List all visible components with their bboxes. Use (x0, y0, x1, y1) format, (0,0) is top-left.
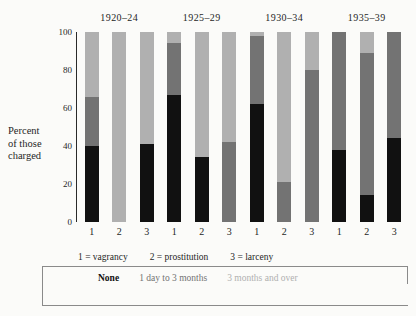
bar-1920-24-cat-1[interactable] (85, 32, 99, 222)
bar-segment-1-day-to-3-months (167, 43, 181, 94)
bar-segment-none (85, 146, 99, 222)
bar-segment-none (140, 144, 154, 222)
bar-segment-3-months-and-over (140, 32, 154, 144)
bar-1935-39-cat-2[interactable] (360, 32, 374, 222)
bar-1930-34-cat-3[interactable] (305, 32, 319, 222)
bar-segment-none (332, 150, 346, 222)
legend-item-none: None (98, 273, 119, 287)
bar-group-1935-39 (326, 32, 409, 222)
bar-group-1925-29 (161, 32, 244, 222)
category-code-prostitution: 2 = prostitution (150, 252, 209, 266)
category-code-vagrancy: 1 = vagrancy (78, 252, 128, 266)
bar-segment-3-months-and-over (277, 32, 291, 182)
y-tick-labels: 100806040200 (42, 32, 72, 222)
bar-segment-1-day-to-3-months (387, 32, 401, 138)
bar-1920-24-cat-2[interactable] (112, 32, 126, 222)
key-box-top-rule (42, 266, 408, 267)
x-tick-label-2: 2 (360, 226, 374, 240)
bar-segment-1-day-to-3-months (277, 182, 291, 222)
bar-segment-3-months-and-over (167, 32, 181, 43)
bar-segment-none (167, 95, 181, 222)
bar-segment-3-months-and-over (222, 32, 236, 142)
group-title-1920-24: 1920–24 (78, 12, 161, 28)
x-tick-label-2: 2 (195, 226, 209, 240)
category-code-larceny: 3 = larceny (230, 252, 273, 266)
bar-segment-3-months-and-over (195, 32, 209, 157)
bar-segment-3-months-and-over (360, 32, 374, 53)
bar-segment-1-day-to-3-months (305, 70, 319, 222)
key-box-bottom-rule (42, 305, 408, 306)
bar-segment-3-months-and-over (112, 32, 126, 222)
group-title-1935-39: 1935–39 (326, 12, 409, 28)
bar-group-1920-24 (78, 32, 161, 222)
bar-1930-34-cat-1[interactable] (250, 32, 264, 222)
x-tick-label-2: 2 (112, 226, 126, 240)
bar-segment-none (387, 138, 401, 222)
group-title-row: 1920–24 1925–29 1930–34 1935–39 (78, 12, 408, 28)
bar-1935-39-cat-1[interactable] (332, 32, 346, 222)
bar-segment-1-day-to-3-months (85, 97, 99, 146)
x-tick-label-3: 3 (140, 226, 154, 240)
bar-groups (78, 32, 408, 222)
x-tick-label-1: 1 (332, 226, 346, 240)
bar-1930-34-cat-2[interactable] (277, 32, 291, 222)
bar-segment-none (195, 157, 209, 222)
bar-segment-none (250, 104, 264, 222)
category-code-key: 1 = vagrancy 2 = prostitution 3 = larcen… (78, 252, 378, 266)
y-tick-label-100: 100 (42, 28, 72, 37)
x-tick-label-row: 123123123123 (78, 226, 408, 240)
bar-segment-3-months-and-over (305, 32, 319, 70)
x-tick-label-1: 1 (250, 226, 264, 240)
x-tick-label-2: 2 (277, 226, 291, 240)
x-tick-label-1: 1 (85, 226, 99, 240)
y-axis-line (76, 32, 77, 222)
bar-segment-3-months-and-over (250, 32, 264, 36)
chart-figure: 1920–24 1925–29 1930–34 1935–39 Percent … (0, 0, 416, 316)
bar-segment-3-months-and-over (85, 32, 99, 97)
group-title-1925-29: 1925–29 (161, 12, 244, 28)
y-tick-label-60: 60 (42, 104, 72, 113)
bar-segment-1-day-to-3-months (222, 142, 236, 222)
bar-segment-1-day-to-3-months (332, 32, 346, 150)
x-tick-label-1: 1 (167, 226, 181, 240)
bar-segment-none (360, 195, 374, 222)
bar-1920-24-cat-3[interactable] (140, 32, 154, 222)
bar-segment-1-day-to-3-months (360, 53, 374, 196)
key-box-left-rule (42, 266, 43, 306)
bar-segment-1-day-to-3-months (250, 36, 264, 104)
bar-1925-29-cat-1[interactable] (167, 32, 181, 222)
legend-item-three-months-and-over: 3 months and over (227, 273, 297, 287)
x-label-group-1920-24: 123 (78, 226, 161, 240)
x-label-group-1925-29: 123 (161, 226, 244, 240)
bar-1925-29-cat-2[interactable] (195, 32, 209, 222)
x-tick-label-3: 3 (222, 226, 236, 240)
key-box-right-rule (407, 266, 408, 284)
y-tick-label-80: 80 (42, 66, 72, 75)
x-label-group-1935-39: 123 (326, 226, 409, 240)
legend-item-one-day-to-three-months: 1 day to 3 months (139, 273, 207, 287)
y-tick-label-40: 40 (42, 142, 72, 151)
legend: None 1 day to 3 months 3 months and over (98, 273, 388, 287)
bar-1935-39-cat-3[interactable] (387, 32, 401, 222)
x-tick-label-3: 3 (305, 226, 319, 240)
x-tick-label-3: 3 (387, 226, 401, 240)
y-tick-label-0: 0 (42, 218, 72, 227)
bar-1925-29-cat-3[interactable] (222, 32, 236, 222)
x-label-group-1930-34: 123 (243, 226, 326, 240)
bar-group-1930-34 (243, 32, 326, 222)
y-tick-label-20: 20 (42, 180, 72, 189)
plot-area: 100806040200 (78, 32, 408, 222)
group-title-1930-34: 1930–34 (243, 12, 326, 28)
